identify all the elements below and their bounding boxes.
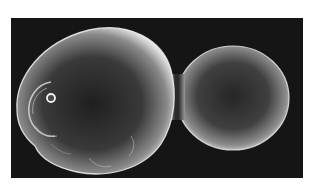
birth-scar-ring	[47, 94, 55, 102]
micrograph-svg	[11, 18, 303, 178]
micrograph-frame	[11, 18, 303, 178]
daughter-bud	[177, 46, 289, 150]
mother-cell	[17, 28, 174, 174]
image-canvas	[0, 0, 318, 188]
